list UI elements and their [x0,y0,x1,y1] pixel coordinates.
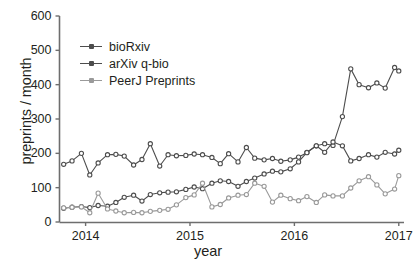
y-tick-label: 200 [18,146,52,160]
data-point [253,156,257,160]
x-tick-label: 2015 [167,229,213,243]
data-point [236,160,240,164]
data-point [244,192,248,196]
data-point [218,162,222,166]
data-point [192,185,196,189]
data-point [288,167,292,171]
data-point [70,205,74,209]
data-point [262,184,266,188]
data-point [357,83,361,87]
data-point [227,179,231,183]
data-point [383,86,387,90]
data-point [340,144,344,148]
data-point [114,152,118,156]
series-peerj-preprints [62,174,401,215]
data-point [148,192,152,196]
legend-label: PeerJ Preprints [109,74,195,88]
data-point [340,115,344,119]
y-tick-label: 0 [18,215,52,229]
data-point [132,193,136,197]
data-point [166,190,170,194]
data-point [397,174,401,178]
data-point [96,161,100,165]
data-point [331,140,335,144]
data-point [375,183,379,187]
data-point [96,203,100,207]
data-point [314,144,318,148]
data-point [140,157,144,161]
data-point [105,153,109,157]
data-point [70,159,74,163]
data-point [122,211,126,215]
data-point [331,194,335,198]
data-point [279,170,283,174]
data-point [158,191,162,195]
legend-item-biorxiv: bioRxiv [80,40,195,54]
data-point [114,200,118,204]
data-point [114,209,118,213]
data-point [296,155,300,159]
data-point [200,181,204,185]
data-point [357,156,361,160]
data-point [366,153,370,157]
data-point [366,86,370,90]
data-point [305,151,309,155]
data-point [262,158,266,162]
data-point [79,205,83,209]
plot-area [0,0,416,267]
y-tick-label: 500 [18,43,52,57]
data-point [174,190,178,194]
legend-label: arXiv q-bio [109,57,169,71]
data-point [210,205,214,209]
data-point [270,156,274,160]
data-point [210,181,214,185]
data-point [397,148,401,152]
data-point [174,203,178,207]
data-point [244,145,248,149]
data-point [62,162,66,166]
data-point [270,200,274,204]
data-point [349,159,353,163]
data-point [227,196,231,200]
legend-item-arxiv-q-bio: arXiv q-bio [80,57,195,71]
data-point [227,152,231,156]
data-point [96,191,100,195]
data-point [132,163,136,167]
data-point [323,193,327,197]
data-point [296,199,300,203]
data-point [105,207,109,211]
data-point [62,206,66,210]
legend-marker-icon [80,42,102,52]
data-point [200,153,204,157]
series-arxiv-q-bio [62,140,401,177]
data-point [397,69,401,73]
data-point [122,195,126,199]
data-point [88,211,92,215]
data-point [288,197,292,201]
data-point [236,184,240,188]
legend-item-peerj-preprints: PeerJ Preprints [80,74,195,88]
data-point [253,176,257,180]
data-point [305,194,309,198]
data-point [357,179,361,183]
chart-legend: bioRxiv arXiv q-bio PeerJ Preprints [80,40,195,91]
x-tick-label: 2016 [271,229,317,243]
data-point [323,150,327,154]
data-point [148,142,152,146]
data-point [375,81,379,85]
data-point [296,160,300,164]
data-point [262,172,266,176]
data-point [174,154,178,158]
data-point [323,142,327,146]
data-point [383,150,387,154]
data-point [279,159,283,163]
data-point [236,193,240,197]
y-tick-label: 300 [18,112,52,126]
data-point [244,179,248,183]
data-point [148,209,152,213]
data-point [122,154,126,158]
data-point [349,186,353,190]
data-point [184,187,188,191]
y-tick-label: 600 [18,9,52,23]
data-point [393,65,397,69]
